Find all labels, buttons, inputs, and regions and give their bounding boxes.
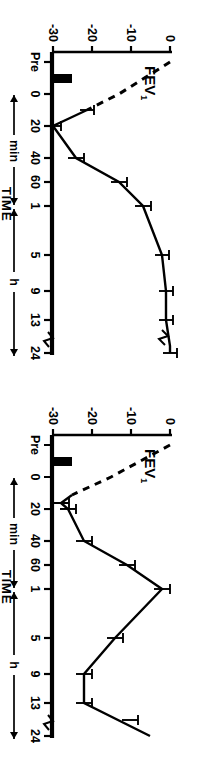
panel-b-challenge-marker-bar — [53, 457, 72, 466]
panel-a-y-label-0: 0 — [163, 35, 177, 42]
panel-a-x-label-13h: 13 — [28, 313, 42, 327]
chart-panel-b: 0 -10 -20 -30 FEV1, % change Pre 0 20 40… — [0, 383, 200, 766]
panel-a-y-label-10: -10 — [124, 24, 138, 42]
panel-b-x-label-20: 20 — [28, 502, 42, 516]
panel-a-x-label-9h: 9 — [28, 288, 42, 295]
chart-panel-a: 0 -10 -20 -30 Pre 0 20 40 60 1 — [0, 0, 200, 383]
panel-a-y-label-30: -30 — [46, 24, 60, 42]
panel-b-x-axis-title: TIME — [0, 570, 14, 605]
panel-b-hour-label: h — [7, 661, 21, 669]
panel-b-error-bars — [53, 498, 170, 725]
panel-b-x-label-60: 60 — [28, 558, 42, 572]
panel-a-challenge-marker-bar — [53, 74, 72, 83]
panel-b-y-label-30: -30 — [46, 407, 60, 425]
panel-a-x-label-0: 0 — [28, 91, 42, 98]
panel-a-x-label-pre: Pre — [28, 52, 42, 72]
panel-b-x-label-0: 0 — [28, 474, 42, 481]
panel-a-x-label-5h: 5 — [28, 252, 42, 259]
panel-b-x-label-5h: 5 — [28, 635, 42, 642]
panel-b-svg: 0 -10 -20 -30 FEV1, % change Pre 0 20 40… — [0, 383, 200, 766]
panel-b-x-label-13h: 13 — [28, 696, 42, 710]
panel-a-hour-segment: h — [7, 209, 21, 356]
panel-b-y-label-20: -20 — [85, 407, 99, 425]
panel-b-x-label-pre: Pre — [28, 435, 42, 455]
figure-canvas: 0 -10 -20 -30 Pre 0 20 40 60 1 — [0, 0, 200, 766]
panel-a-x-label-1h: 1 — [28, 203, 42, 210]
panel-a-x-axis-title: TIME — [0, 187, 14, 222]
panel-b-x-label-9h: 9 — [28, 671, 42, 678]
panel-a-series-label: FEV1 — [139, 66, 159, 100]
panel-a-y-label-20: -20 — [85, 24, 99, 42]
panel-a-hour-label: h — [7, 278, 21, 286]
panel-a-x-label-20: 20 — [28, 119, 42, 133]
panel-b-x-label-40: 40 — [28, 534, 42, 548]
panel-b-x-label-1h: 1 — [28, 586, 42, 593]
panel-b-hour-segment: h — [7, 592, 21, 739]
panel-b-y-label-10: -10 — [124, 407, 138, 425]
panel-a-min-label: min — [7, 140, 21, 162]
panel-b-min-label: min — [7, 523, 21, 545]
panel-a-x-label-24h: 24 — [28, 346, 42, 360]
panel-b-series-label: FEV1 — [139, 449, 159, 483]
panel-b-y-label-0: 0 — [163, 418, 177, 425]
panel-b-solid-series — [61, 495, 162, 736]
panel-a-x-label-40: 40 — [28, 151, 42, 165]
panel-a-data-line-break — [159, 330, 168, 345]
panel-a-x-label-60: 60 — [28, 175, 42, 189]
panel-b-x-label-24h: 24 — [28, 729, 42, 743]
panel-a-svg: 0 -10 -20 -30 Pre 0 20 40 60 1 — [0, 0, 200, 383]
panel-a-solid-series — [53, 110, 166, 320]
